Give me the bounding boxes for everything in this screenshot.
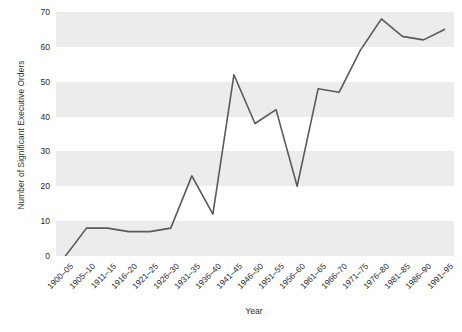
x-tick-label: 1961–65 xyxy=(298,261,328,291)
x-tick-label: 1986–90 xyxy=(404,261,434,291)
x-tick-label: 1946–50 xyxy=(235,261,265,291)
x-tick-label: 1991–95 xyxy=(425,261,455,291)
x-tick-label: 1926–30 xyxy=(151,261,181,291)
x-tick-label: 1936–40 xyxy=(193,261,223,291)
x-tick-label: 1905–10 xyxy=(67,261,97,291)
x-tick-label: 1956–60 xyxy=(277,261,307,291)
x-tick-label: 1931–35 xyxy=(172,261,202,291)
x-tick-label: 1921–25 xyxy=(130,261,160,291)
x-axis-title: Year xyxy=(56,306,452,316)
y-tick-label: 0 xyxy=(15,251,55,261)
series-line-svg xyxy=(56,12,454,256)
x-tick-label: 1971–75 xyxy=(340,261,370,291)
x-tick-label: 1981–85 xyxy=(383,261,413,291)
series-line xyxy=(65,19,444,256)
x-tick-label: 1966–70 xyxy=(319,261,349,291)
x-tick-label: 1900–05 xyxy=(46,261,76,291)
x-tick-label: 1911–15 xyxy=(88,261,117,290)
x-tick-label: 1951–55 xyxy=(256,261,286,291)
x-tick-label: 1916–20 xyxy=(109,261,139,291)
y-axis-title: Number of Significant Executive Orders xyxy=(16,35,26,235)
plot-area xyxy=(56,12,454,256)
executive-orders-line-chart: Number of Significant Executive Orders 0… xyxy=(0,0,462,332)
x-tick-label: 1976–80 xyxy=(361,261,391,291)
x-tick-label: 1941–45 xyxy=(214,261,244,291)
y-tick-label: 70 xyxy=(15,7,55,17)
